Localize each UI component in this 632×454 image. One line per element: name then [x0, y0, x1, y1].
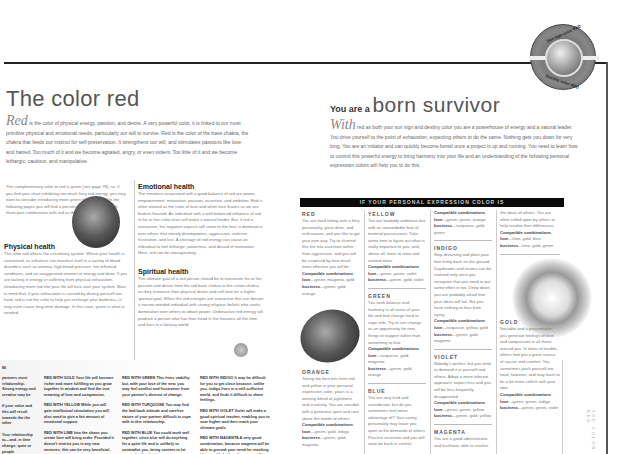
column-divider: [430, 210, 431, 454]
color-yellow: YELLOW You are laudably ambitious but wi…: [368, 210, 426, 284]
spiritual-health-section: Spiritual health The ultimate goal of a …: [138, 267, 264, 329]
bottom-col-1: RED WITH GOLD Your life will become rich…: [44, 376, 114, 453]
vertical-section-tab: THE COLOR RED: [586, 410, 596, 454]
page-number: 86: [2, 366, 6, 372]
column-divider: [134, 180, 135, 360]
bottom-strip: 86 partners must relationship. Strong en…: [0, 360, 290, 454]
color-badge: Sun sign color RED Destiny color RED: [530, 24, 596, 90]
dropcap: With: [330, 117, 356, 132]
color-column-3: Compatible combinations love—green, gree…: [434, 210, 492, 449]
column-divider: [364, 210, 365, 454]
color-turquoise: Compatible combinations love—green, gree…: [434, 210, 492, 236]
separator: [434, 240, 492, 241]
emotional-health-section: Emotional health The emotions associated…: [138, 182, 264, 257]
column-divider: [562, 360, 563, 454]
badge-gem: [545, 39, 583, 77]
emotional-health-heading: Emotional health: [138, 182, 264, 191]
separator: [500, 254, 560, 255]
bottom-col-2: RED WITH GREEN This frees stability but,…: [122, 376, 192, 454]
physical-health-text: The color red affects the circulatory sy…: [4, 251, 128, 317]
color-magenta: MAGENTA You are a good administrator and…: [434, 428, 492, 449]
color-violet: VIOLET Nobody's perfect, but you tend to…: [434, 353, 492, 420]
bottom-col-0: partners must relationship. Strong energ…: [2, 376, 36, 454]
top-divider: [4, 62, 608, 64]
physical-health-section: Physical health The color red affects th…: [4, 242, 128, 317]
dropcap: Red: [6, 113, 28, 128]
color-lime: the ideas of others. You are often calle…: [500, 210, 560, 258]
emotional-health-text: The emotions associated with a good bala…: [138, 191, 264, 257]
column-divider: [496, 210, 497, 454]
separator: [368, 383, 426, 384]
right-page-border: [606, 62, 608, 454]
separator: [434, 349, 492, 350]
bottom-col-3: RED WITH INDIGO It may be difficult for …: [200, 376, 270, 454]
expression-color-banner: IF YOUR PERSONAL EXPRESSION COLOR IS: [300, 198, 564, 207]
color-orange: ORANGE Taking the best bits from red and…: [302, 368, 360, 449]
color-red: RED You are hard-hitting with a fiery pe…: [302, 210, 360, 297]
page-title-right: You are a born survivor: [330, 93, 500, 117]
spiritual-health-text: The ultimate goal of a red person should…: [138, 276, 264, 329]
intro-left: Red is the color of physical energy, pas…: [6, 116, 250, 167]
color-green: GREEN You seek balance and harmony in al…: [368, 292, 426, 379]
separator: [434, 424, 492, 425]
color-column-2: YELLOW You are laudably ambitious but wi…: [368, 210, 426, 448]
ornament-icon: [234, 343, 248, 357]
separator: [368, 288, 426, 289]
color-gold: GOLD Sociable and a peacemaker, you gene…: [500, 318, 560, 412]
spiritual-health-heading: Spiritual health: [138, 267, 264, 276]
color-indigo: INDIGO Stop dreaming and plant your feet…: [434, 244, 492, 344]
red-stone-image: [72, 196, 120, 248]
red-gem-image: [293, 301, 367, 370]
color-blue: BLUE You are very kind and considerate, …: [368, 387, 426, 448]
intro-right: With red as both your sun sign and desti…: [330, 120, 580, 171]
page-title-left: The color red: [6, 86, 140, 112]
physical-health-heading: Physical health: [4, 242, 128, 251]
